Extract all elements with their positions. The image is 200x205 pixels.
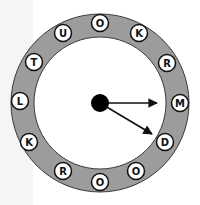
letter-label: L <box>17 96 24 107</box>
letter-tile: L <box>12 93 29 110</box>
hub-dot <box>91 94 109 112</box>
letter-label: T <box>31 57 38 68</box>
letter-tile: O <box>92 174 109 191</box>
letter-label: O <box>96 177 105 188</box>
letter-tile: D <box>157 134 174 151</box>
letter-tile: R <box>159 55 176 72</box>
letter-tile: M <box>172 95 189 112</box>
letter-label: D <box>161 137 169 148</box>
letter-tile: O <box>92 15 109 32</box>
letter-tile: K <box>131 25 148 42</box>
letter-label: U <box>59 28 67 39</box>
letter-tile: U <box>55 25 72 42</box>
letter-label: M <box>175 98 185 109</box>
letter-label: O <box>96 18 105 29</box>
letter-label: R <box>59 166 67 177</box>
letter-tile: O <box>128 163 145 180</box>
word-wheel-puzzle: OKRMDOORKLTU <box>0 0 200 205</box>
letter-label: K <box>135 28 144 39</box>
letter-tile: K <box>21 134 38 151</box>
letter-label: R <box>163 58 171 69</box>
letter-tile: T <box>26 54 43 71</box>
letter-label: O <box>132 166 141 177</box>
letter-label: K <box>25 137 34 148</box>
letter-tile: R <box>55 163 72 180</box>
